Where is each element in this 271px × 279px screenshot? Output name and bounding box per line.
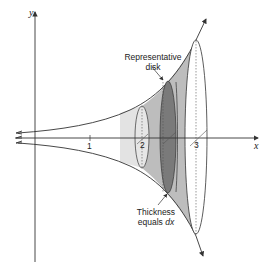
thickness-label: Thickness equals dx — [128, 207, 184, 227]
diagram-canvas — [0, 0, 271, 279]
representative-disk — [160, 81, 176, 193]
y-axis-label: y — [29, 8, 33, 18]
x-tick-1: 1 — [87, 141, 92, 151]
representative-disk-label: Representative disk — [118, 52, 188, 72]
solid-of-revolution-diagram: y x 1 2 3 Representative disk Thickness … — [0, 0, 271, 279]
x-tick-3: 3 — [194, 140, 199, 150]
x-tick-2: 2 — [140, 140, 145, 150]
x-axis-label: x — [254, 141, 258, 151]
